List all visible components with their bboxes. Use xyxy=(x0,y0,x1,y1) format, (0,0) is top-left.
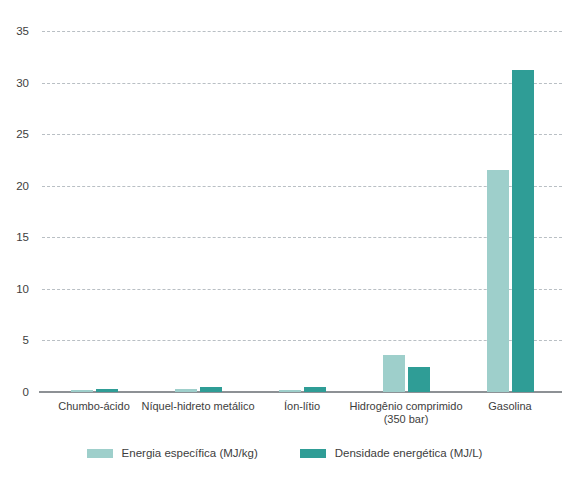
bar-group xyxy=(42,31,146,392)
bar-energy-density xyxy=(304,387,326,392)
y-axis-tick-label: 20 xyxy=(0,180,29,192)
bar-group xyxy=(146,31,250,392)
bar-energy-density xyxy=(512,70,534,392)
bar-energy-density xyxy=(96,389,118,392)
x-axis-tick-label: Níquel-hidreto metálico xyxy=(141,400,254,413)
bar-energy-density xyxy=(408,367,430,392)
y-axis-tick-label: 25 xyxy=(0,128,29,140)
legend-item-specific-energy: Energia específica (MJ/kg) xyxy=(87,447,258,459)
chart-legend: Energia específica (MJ/kg) Densidade ene… xyxy=(0,447,569,459)
legend-swatch-specific-energy xyxy=(87,449,113,458)
x-axis-tick-label: Chumbo-ácido xyxy=(58,400,130,413)
y-axis-tick-label: 5 xyxy=(0,334,29,346)
bar-group xyxy=(354,31,458,392)
legend-item-energy-density: Densidade energética (MJ/L) xyxy=(300,447,483,459)
bar-group xyxy=(250,31,354,392)
y-axis-tick-label: 35 xyxy=(0,25,29,37)
bar-specific-energy xyxy=(279,390,301,392)
bar-specific-energy xyxy=(383,355,405,392)
bar-energy-density xyxy=(200,387,222,392)
y-axis-tick-label: 15 xyxy=(0,231,29,243)
bar-specific-energy xyxy=(487,170,509,392)
plot-area: 05101520253035 xyxy=(42,31,562,392)
legend-swatch-energy-density xyxy=(300,449,326,458)
y-axis-tick-label: 0 xyxy=(0,386,29,398)
bar-specific-energy xyxy=(175,389,197,392)
legend-label-energy-density: Densidade energética (MJ/L) xyxy=(335,447,483,459)
bar-specific-energy xyxy=(71,390,93,392)
x-axis-tick-label: Gasolina xyxy=(488,400,531,413)
y-axis-tick-label: 30 xyxy=(0,77,29,89)
energy-density-bar-chart: 05101520253035 Energia específica (MJ/kg… xyxy=(0,0,569,485)
legend-label-specific-energy: Energia específica (MJ/kg) xyxy=(122,447,258,459)
x-axis-tick-label: Íon-lítio xyxy=(284,400,320,413)
y-axis-tick-label: 10 xyxy=(0,283,29,295)
bar-group xyxy=(458,31,562,392)
x-axis-tick-label: Hidrogênio comprimido (350 bar) xyxy=(349,400,462,426)
